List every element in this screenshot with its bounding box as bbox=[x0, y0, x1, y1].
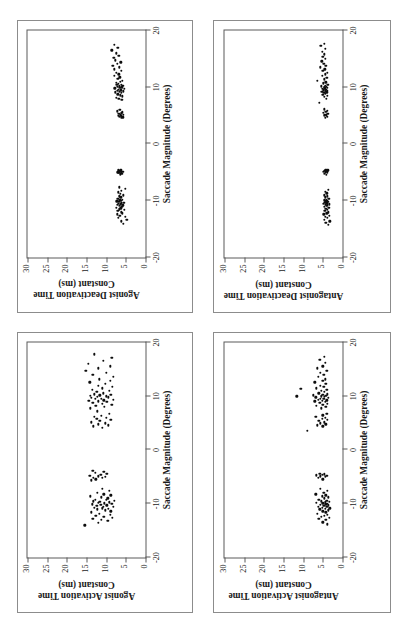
scatter-point bbox=[328, 219, 330, 221]
scatter-point bbox=[108, 379, 110, 381]
scatter-point bbox=[105, 400, 107, 402]
scatter-point bbox=[89, 406, 91, 408]
x-tick-mark bbox=[342, 143, 347, 144]
scatter-point bbox=[317, 517, 319, 519]
scatter-point bbox=[317, 419, 319, 421]
scatter-point bbox=[125, 218, 127, 220]
panel-antagonist-activation: Antagonist Activation Time Constant (ms)… bbox=[213, 332, 391, 613]
scatter-point bbox=[119, 83, 121, 85]
y-axis-title-line2: Constant (ms) bbox=[223, 278, 342, 289]
scatter-point bbox=[318, 358, 320, 360]
scatter-point bbox=[107, 396, 109, 398]
scatter-point bbox=[324, 47, 326, 49]
x-tick-mark bbox=[145, 395, 150, 396]
y-tick-label: 10 bbox=[299, 564, 307, 572]
scatter-point bbox=[324, 518, 326, 520]
scatter-point bbox=[100, 496, 102, 498]
scatter-point bbox=[320, 406, 322, 408]
plot-figure: Antagonist Deactivation Time Constant (m… bbox=[215, 21, 389, 312]
panel-rotation-wrapper: Antagonist Activation Time Constant (ms)… bbox=[215, 333, 389, 612]
scatter-point bbox=[101, 426, 103, 428]
scatter-point bbox=[327, 500, 329, 502]
scatter-point bbox=[117, 191, 119, 193]
scatter-point bbox=[117, 97, 119, 99]
y-tick-label: 0 bbox=[338, 264, 346, 268]
scatter-point bbox=[295, 395, 297, 397]
x-tick-label: -10 bbox=[349, 195, 357, 206]
scatter-point bbox=[123, 208, 125, 210]
scatter-point bbox=[316, 79, 318, 81]
y-tick-label: 15 bbox=[82, 564, 90, 572]
scatter-point bbox=[108, 389, 110, 391]
x-tick-mark bbox=[145, 199, 150, 200]
scatter-point bbox=[327, 496, 329, 498]
scatter-point bbox=[120, 189, 122, 191]
scatter-point bbox=[318, 101, 320, 103]
y-tick-label: 25 bbox=[43, 564, 51, 572]
x-tick-label: 10 bbox=[349, 83, 357, 91]
scatter-point bbox=[326, 83, 328, 85]
scatter-point bbox=[320, 515, 322, 517]
scatter-point bbox=[326, 489, 328, 491]
scatter-point bbox=[90, 511, 92, 513]
scatter-point bbox=[115, 71, 117, 73]
scatter-point bbox=[121, 79, 123, 81]
scatter-point bbox=[101, 391, 103, 393]
scatter-point bbox=[94, 477, 96, 479]
scatter-point bbox=[101, 505, 103, 507]
scatter-point bbox=[318, 401, 320, 403]
scatter-point bbox=[319, 44, 321, 46]
x-tick-label: 0 bbox=[152, 447, 160, 451]
scatter-point bbox=[123, 87, 125, 89]
plot-area: 051015202530 -20-1001020 bbox=[223, 29, 343, 258]
scatter-point bbox=[99, 503, 101, 505]
scatter-point bbox=[94, 404, 96, 406]
scatter-point bbox=[323, 190, 325, 192]
scatter-point bbox=[105, 472, 107, 474]
scatter-point bbox=[322, 193, 324, 195]
scatter-point bbox=[323, 361, 325, 363]
scatter-point bbox=[316, 512, 318, 514]
y-tick-label: 0 bbox=[141, 564, 149, 568]
scatter-point bbox=[111, 64, 113, 66]
scatter-point bbox=[107, 507, 109, 509]
y-tick-label: 5 bbox=[318, 564, 326, 568]
scatter-point bbox=[325, 71, 327, 73]
scatter-point bbox=[92, 476, 94, 478]
x-tick-label: -10 bbox=[349, 498, 357, 509]
y-axis-title-line2: Constant (ms) bbox=[228, 578, 338, 589]
scatter-point bbox=[316, 375, 318, 377]
y-tick-mark bbox=[27, 557, 28, 562]
scatter-point bbox=[109, 418, 111, 420]
x-tick-mark bbox=[145, 86, 150, 87]
scatter-point bbox=[111, 516, 113, 518]
scatter-point bbox=[119, 61, 121, 63]
plot-figure: Agonist Deactivation Time Constant (ms) … bbox=[18, 21, 192, 312]
y-tick-mark bbox=[342, 557, 343, 562]
scatter-point bbox=[124, 215, 126, 217]
scatter-point bbox=[112, 74, 114, 76]
scatter-point bbox=[325, 388, 327, 390]
scatter-point bbox=[93, 498, 95, 500]
scatter-point bbox=[321, 413, 323, 415]
scatter-point bbox=[109, 510, 111, 512]
y-tick-mark bbox=[283, 557, 284, 562]
y-tick-label: 5 bbox=[121, 264, 129, 268]
scatter-point bbox=[101, 402, 103, 404]
scatter-point bbox=[101, 487, 103, 489]
scatter-point bbox=[299, 387, 301, 389]
scatter-point bbox=[110, 49, 112, 51]
scatter-point bbox=[108, 364, 110, 366]
scatter-point bbox=[326, 195, 328, 197]
x-tick-mark bbox=[145, 556, 150, 557]
scatter-point bbox=[97, 377, 99, 379]
scatter-point bbox=[324, 405, 326, 407]
scatter-point bbox=[108, 500, 110, 502]
scatter-point bbox=[320, 74, 322, 76]
y-tick-mark bbox=[263, 557, 264, 562]
scatter-point bbox=[100, 397, 102, 399]
scatter-point bbox=[90, 420, 92, 422]
scatter-point bbox=[321, 425, 323, 427]
scatter-point bbox=[325, 412, 327, 414]
x-tick-label: 10 bbox=[349, 392, 357, 400]
